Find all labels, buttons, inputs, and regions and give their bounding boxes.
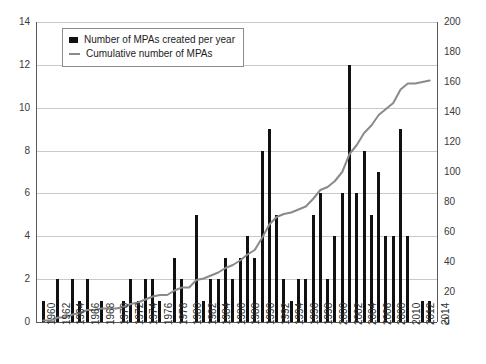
square-marker-icon <box>69 37 78 43</box>
bar <box>399 129 402 322</box>
x-axis-tick: 1974 <box>149 303 159 325</box>
x-axis-tick: 1960 <box>47 303 57 325</box>
x-axis-tick: 2006 <box>383 303 393 325</box>
x-axis-tick: 1968 <box>106 303 116 325</box>
bar <box>42 301 45 322</box>
y-axis-left-tick: 14 <box>4 17 30 27</box>
y-axis-left-line <box>36 22 37 322</box>
line-marker-icon <box>69 53 80 55</box>
y-axis-right-tick: 200 <box>444 17 478 27</box>
y-axis-left-tick: 8 <box>4 146 30 156</box>
x-axis-tick: 2012 <box>426 303 436 325</box>
x-axis-tick: 1978 <box>179 303 189 325</box>
y-axis-left-tick: 12 <box>4 60 30 70</box>
y-axis-right-tick: 180 <box>444 47 478 57</box>
x-axis-tick: 1988 <box>251 303 261 325</box>
x-axis-tick: 1970 <box>120 303 130 325</box>
gridline <box>36 108 437 109</box>
x-axis-tick: 2010 <box>412 303 422 325</box>
x-axis-tick: 1980 <box>193 303 203 325</box>
y-axis-right-tick: 20 <box>444 287 478 297</box>
y-axis-right-tick: 60 <box>444 227 478 237</box>
y-axis-right-tick: 140 <box>444 107 478 117</box>
x-axis-tick: 1992 <box>281 303 291 325</box>
x-axis-tick: 1976 <box>164 303 174 325</box>
chart-legend: Number of MPAs created per year Cumulati… <box>62 28 244 67</box>
y-axis-right-tick: 120 <box>444 137 478 147</box>
legend-item-line: Cumulative number of MPAs <box>69 47 235 61</box>
x-axis-tick: 1964 <box>76 303 86 325</box>
x-axis-tick: 1972 <box>135 303 145 325</box>
x-axis-tick: 2004 <box>368 303 378 325</box>
x-axis-tick: 2000 <box>339 303 349 325</box>
y-axis-right-tick: 80 <box>444 197 478 207</box>
y-axis-right-tick: 100 <box>444 167 478 177</box>
bar <box>261 151 264 322</box>
x-axis-tick: 1990 <box>266 303 276 325</box>
bar <box>268 129 271 322</box>
y-axis-left-tick: 10 <box>4 103 30 113</box>
gridline <box>36 151 437 152</box>
y-axis-left-tick: 6 <box>4 188 30 198</box>
y-axis-right-tick: 40 <box>444 257 478 267</box>
y-axis-right-tick: 160 <box>444 77 478 87</box>
bar <box>348 65 351 322</box>
x-axis-tick: 1994 <box>295 303 305 325</box>
x-axis-tick: 1966 <box>91 303 101 325</box>
y-axis-left-tick: 0 <box>4 317 30 327</box>
y-axis-left-tick: 4 <box>4 231 30 241</box>
x-axis-tick: 1996 <box>310 303 320 325</box>
mpa-creation-chart: 02468101214 020406080100120140160180200 … <box>0 0 486 364</box>
bar <box>377 172 380 322</box>
x-axis-tick: 1962 <box>62 303 72 325</box>
legend-label-bars: Number of MPAs created per year <box>84 33 235 47</box>
y-axis-left-tick: 2 <box>4 274 30 284</box>
x-axis-tick: 2002 <box>354 303 364 325</box>
bar <box>363 151 366 322</box>
x-axis-tick: 1982 <box>208 303 218 325</box>
y-axis-right-line <box>437 22 438 322</box>
x-axis-tick: 1998 <box>324 303 334 325</box>
x-axis-tick: 1986 <box>237 303 247 325</box>
legend-label-line: Cumulative number of MPAs <box>86 47 213 61</box>
legend-item-bars: Number of MPAs created per year <box>69 33 235 47</box>
x-axis-tick: 2014 <box>441 303 451 325</box>
gridline <box>36 22 437 23</box>
x-axis-tick: 1984 <box>222 303 232 325</box>
x-axis-tick: 2008 <box>397 303 407 325</box>
